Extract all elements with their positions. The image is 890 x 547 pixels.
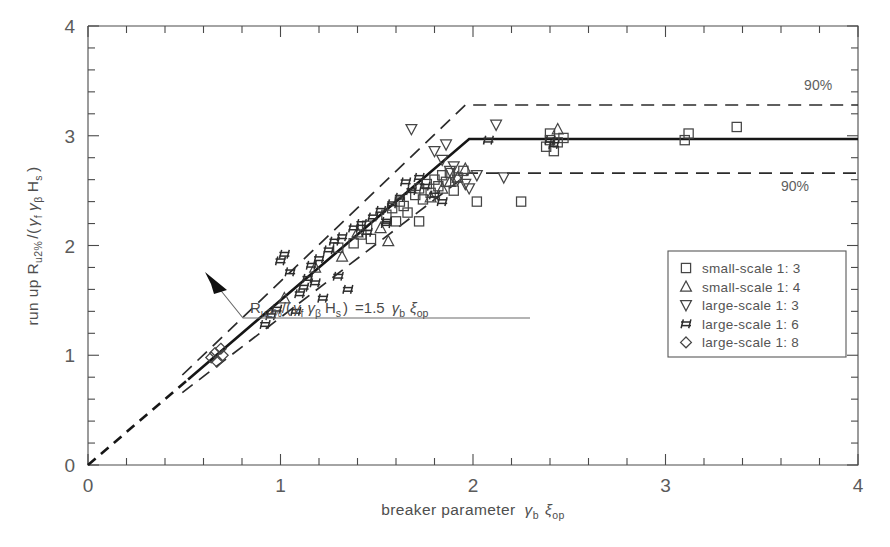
y-title-close: ) <box>24 166 41 172</box>
data-point <box>406 125 417 135</box>
hash-stroke <box>287 250 289 259</box>
legend-item-label: small-scale 1: 4 <box>702 280 801 295</box>
x-tick-label: 4 <box>853 475 864 496</box>
data-point <box>498 173 509 183</box>
y-tick-label: 4 <box>64 16 75 37</box>
hash-stroke <box>351 285 353 294</box>
y-title-H: H <box>24 181 41 193</box>
legend-item-label: large-scale 1: 8 <box>702 335 799 350</box>
data-point <box>471 171 482 181</box>
leader-arrowhead <box>205 272 227 294</box>
y-tick-label: 3 <box>64 126 75 147</box>
y-tick-label: 1 <box>64 345 75 366</box>
y-title-prefix: run up R <box>24 263 41 326</box>
formula-equals: =1.5 <box>355 299 385 316</box>
series-square <box>334 122 742 252</box>
hash-stroke <box>283 256 285 265</box>
data-point <box>491 120 502 130</box>
axis-box <box>88 26 858 465</box>
wave-runup-scatter-chart: 01234 01234 90% 90% Ru2%/(γfγβHs)=1.5γbξ… <box>0 0 890 547</box>
x-axis-title: breaker parameterγbξop <box>381 501 565 521</box>
hash-stroke <box>341 272 343 281</box>
y-axis-tick-labels: 01234 <box>64 16 75 476</box>
formula-open: /( <box>282 299 291 316</box>
formula-close: ) <box>343 299 348 316</box>
data-point <box>684 129 693 138</box>
x-tick-label: 0 <box>83 475 94 496</box>
legend-item-label: small-scale 1: 3 <box>702 261 801 276</box>
data-point <box>401 177 411 186</box>
data-point <box>472 197 481 206</box>
design-line-dashed-segment <box>88 379 188 465</box>
hash-stroke <box>279 250 281 259</box>
hash-stroke <box>333 272 335 281</box>
hash-stroke <box>420 182 422 191</box>
data-point <box>299 283 309 292</box>
formula-xi-sub: op <box>417 307 429 319</box>
legend-item-label: large-scale 1: 6 <box>702 317 799 332</box>
hash-stroke <box>343 285 345 294</box>
y-axis-title-text: run up Ru2%/(γfγβHs) <box>24 166 44 325</box>
data-point <box>391 217 400 226</box>
hash-stroke <box>349 224 351 233</box>
data-point <box>276 256 286 265</box>
lower-confidence-label: 90% <box>781 178 809 194</box>
y-title-gamma-f-sub: f <box>32 215 44 218</box>
hash-stroke <box>414 173 416 182</box>
data-point <box>460 179 471 189</box>
hash-stroke <box>408 177 410 186</box>
hash-stroke <box>318 294 320 303</box>
x-tick-label: 1 <box>275 475 286 496</box>
hash-stroke <box>295 289 297 298</box>
chart-legend[interactable]: small-scale 1: 3small-scale 1: 4large-sc… <box>668 251 846 357</box>
formula-R: R <box>250 299 261 316</box>
hash-stroke <box>318 278 320 287</box>
data-point <box>403 208 412 217</box>
y-title-mid: /( <box>24 228 41 239</box>
hash-stroke <box>268 320 270 329</box>
data-point <box>437 197 447 206</box>
data-point <box>448 162 459 172</box>
formula-gamma-f-sub: f <box>301 307 304 319</box>
plot-frame <box>88 26 858 465</box>
hash-stroke <box>345 232 347 241</box>
hash-stroke <box>407 186 409 195</box>
y-title-gamma-beta-sub: β <box>32 196 44 202</box>
data-point <box>324 245 334 254</box>
hash-stroke <box>370 228 372 237</box>
hash-stroke <box>322 254 324 263</box>
series-diamond <box>206 343 228 367</box>
hash-stroke <box>401 177 403 186</box>
data-point <box>295 289 305 298</box>
data-point <box>362 228 372 237</box>
hash-stroke <box>306 261 308 270</box>
legend-item-label: large-scale 1: 3 <box>702 298 799 313</box>
hash-stroke <box>368 213 370 222</box>
x-tick-label: 2 <box>468 475 479 496</box>
x-title-prefix: breaker parameter <box>381 501 515 518</box>
x-title-gamma-sub: b <box>533 509 539 521</box>
data-point <box>260 320 270 329</box>
data-point <box>420 182 430 191</box>
x-axis-title-text: breaker parameterγbξop <box>381 501 565 521</box>
hash-stroke <box>330 237 332 246</box>
y-axis-title: run up Ru2%/(γfγβHs) <box>24 166 44 325</box>
formula-gamma-b-sub: b <box>399 307 405 319</box>
series-triangle-up <box>279 124 563 303</box>
formula-H-sub: s <box>336 307 341 319</box>
hash-stroke <box>302 289 304 298</box>
data-point <box>279 250 289 259</box>
x-title-xi-sub: op <box>552 509 564 521</box>
data-markers-layer <box>206 120 742 367</box>
data-point <box>517 197 526 206</box>
hash-stroke <box>276 256 278 265</box>
data-point <box>366 234 375 243</box>
hash-stroke <box>422 173 424 182</box>
data-point <box>732 122 741 131</box>
hash-stroke <box>331 245 333 254</box>
data-point <box>415 217 424 226</box>
hash-stroke <box>260 320 262 329</box>
y-title-H-sub: s <box>32 175 44 181</box>
data-point <box>460 163 471 173</box>
hash-stroke <box>324 245 326 254</box>
